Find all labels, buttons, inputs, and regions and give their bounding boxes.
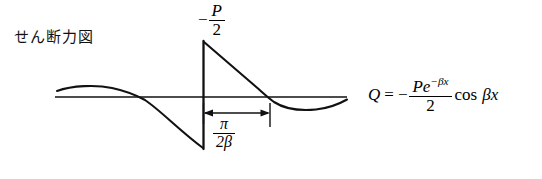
shear-force-equation: Q = − Pe−βx 2 cos βx bbox=[368, 76, 498, 114]
dimension-denominator: 2β bbox=[213, 134, 235, 151]
curve-right-branch bbox=[204, 42, 347, 110]
peak-denominator: 2 bbox=[209, 21, 225, 39]
peak-fraction: P2 bbox=[209, 2, 225, 39]
dimension-fraction: π2β bbox=[213, 116, 235, 151]
equation-numerator-base: Pe bbox=[412, 77, 430, 96]
equation-leading-minus: − bbox=[398, 85, 410, 105]
dimension-arrowhead-right bbox=[261, 110, 271, 117]
equation-lhs: Q bbox=[368, 85, 380, 105]
peak-value-label: −P2 bbox=[198, 2, 225, 39]
equation-fraction: Pe−βx 2 bbox=[409, 76, 451, 114]
equation-cos-argument: βx bbox=[482, 85, 498, 105]
dimension-value-label: π2β bbox=[213, 116, 235, 151]
peak-minus-sign: − bbox=[198, 10, 209, 30]
dimension-numerator: π bbox=[213, 116, 235, 134]
equation-cos-operator: cos bbox=[452, 85, 478, 105]
dimension-arrowhead-left bbox=[204, 110, 214, 117]
equation-equals-sign: = bbox=[380, 85, 398, 105]
equation-numerator-exponent: −βx bbox=[430, 75, 448, 87]
curve-left-branch bbox=[57, 86, 203, 148]
peak-numerator: P bbox=[209, 2, 225, 21]
equation-numerator: Pe−βx bbox=[409, 76, 451, 97]
shear-force-diagram-figure: せん断力図 −P2 π2β Q = − Pe−βx bbox=[0, 0, 542, 179]
equation-denominator: 2 bbox=[409, 97, 451, 115]
